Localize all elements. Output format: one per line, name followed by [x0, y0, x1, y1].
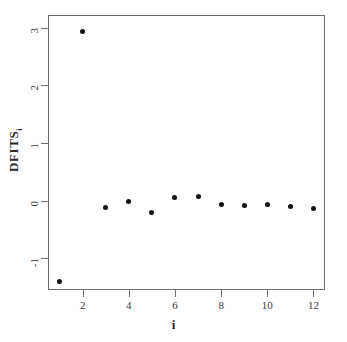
x-axis-tick-label: 12	[298, 299, 328, 311]
y-axis-tick	[41, 143, 48, 144]
y-axis-label-text: DFITS	[6, 131, 21, 172]
x-axis-tick	[267, 290, 268, 297]
y-axis-tick	[41, 28, 48, 29]
x-axis-tick	[129, 290, 130, 297]
x-axis-tick-label: 10	[252, 299, 282, 311]
y-axis-tick-label: 2	[28, 85, 40, 111]
x-axis-label: i	[0, 317, 347, 333]
scatter-plot-figure: 3210-124681012 DFITSi i	[0, 0, 347, 342]
x-axis-tick-label: 2	[68, 299, 98, 311]
x-axis-tick-label: 4	[114, 299, 144, 311]
y-axis-label-subscript: i	[15, 128, 24, 131]
plot-frame	[48, 15, 325, 290]
x-axis-tick	[313, 290, 314, 297]
x-axis-tick	[175, 290, 176, 297]
y-axis-tick-label: -1	[28, 258, 40, 284]
y-axis-tick	[41, 258, 48, 259]
x-axis-tick-label: 8	[206, 299, 236, 311]
x-axis-tick	[83, 290, 84, 297]
y-axis-tick-label: 1	[28, 143, 40, 169]
y-axis-tick-label: 3	[28, 28, 40, 54]
y-axis-tick	[41, 85, 48, 86]
x-axis-tick	[221, 290, 222, 297]
y-axis-tick-label: 0	[28, 201, 40, 227]
x-axis-tick-label: 6	[160, 299, 190, 311]
y-axis-tick	[41, 201, 48, 202]
y-axis-label: DFITSi	[4, 100, 26, 200]
